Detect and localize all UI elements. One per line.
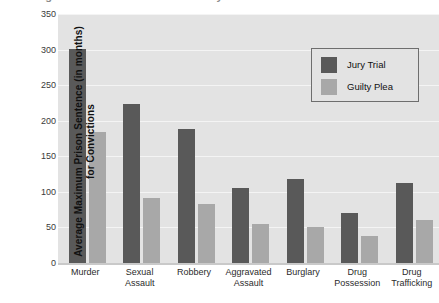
x-axis-tick-label: DrugPossession — [330, 267, 384, 289]
x-axis-tick-label: AggravatedAssault — [221, 267, 275, 289]
bar-group — [174, 14, 220, 263]
y-axis-tick-label: 100 — [41, 188, 56, 197]
bar-jury-trial[interactable] — [178, 129, 195, 263]
bar-jury-trial[interactable] — [123, 104, 140, 263]
x-axis-tick-label: Robbery — [167, 267, 221, 278]
x-axis-tick-label-line1: Robbery — [177, 267, 211, 277]
x-axis-tick-label-line1: Murder — [71, 267, 100, 277]
bar-jury-trial[interactable] — [341, 213, 358, 263]
legend-swatch-guilty-plea — [321, 79, 337, 95]
legend: Jury Trial Guilty Plea — [311, 48, 419, 102]
y-axis-title-line1: Average Maximum Prison Sentence (in mont… — [73, 26, 84, 257]
x-axis-tick-label: Murder — [58, 267, 112, 278]
x-axis-tick-label-line1: Sexual — [126, 267, 154, 277]
y-axis-tick-label: 150 — [41, 152, 56, 161]
y-axis-title: Average Maximum Prison Sentence (in mont… — [73, 17, 96, 267]
y-axis-tick-label: 0 — [51, 259, 56, 268]
y-axis-tick-label: 50 — [46, 223, 56, 232]
y-axis-tick-label: 300 — [41, 46, 56, 55]
x-axis-tick-label-line1: Drug — [348, 267, 368, 277]
x-axis-tick-label: DrugTrafficking — [385, 267, 439, 289]
y-axis-title-line2: for Convictions — [84, 17, 96, 267]
y-axis-tick-label: 350 — [41, 10, 56, 19]
y-axis-tick-labels: 050100150200250300350 — [34, 14, 56, 265]
bar-guilty-plea[interactable] — [307, 227, 324, 263]
bar-group — [119, 14, 165, 263]
x-axis-tick-label-line2: Assault — [221, 278, 275, 289]
x-axis-tick-label-line2: Possession — [330, 278, 384, 289]
y-axis-tick-label: 250 — [41, 81, 56, 90]
x-axis-line — [58, 263, 439, 265]
bar-jury-trial[interactable] — [232, 188, 249, 263]
y-axis-tick-label: 200 — [41, 117, 56, 126]
bar-guilty-plea[interactable] — [361, 236, 378, 263]
x-axis-tick-label-line1: Aggravated — [225, 267, 271, 277]
bar-guilty-plea[interactable] — [416, 220, 433, 263]
x-axis-tick-label-line2: Trafficking — [385, 278, 439, 289]
legend-label-guilty-plea: Guilty Plea — [347, 81, 393, 93]
x-axis-tick-label-line1: Drug — [402, 267, 422, 277]
bar-guilty-plea[interactable] — [143, 198, 160, 263]
bar-group — [228, 14, 274, 263]
legend-swatch-jury-trial — [321, 57, 337, 73]
legend-label-jury-trial: Jury Trial — [347, 59, 386, 71]
x-axis-tick-label: SexualAssault — [112, 267, 166, 289]
cut-off-chart-title: Average Maximum Prison Sentence by Offen… — [0, 0, 439, 9]
x-axis-tick-label-line1: Burglary — [286, 267, 320, 277]
bar-jury-trial[interactable] — [396, 183, 413, 263]
x-axis-tick-labels: MurderSexualAssaultRobberyAggravatedAssa… — [58, 267, 439, 303]
x-axis-tick-label: Burglary — [276, 267, 330, 278]
bar-guilty-plea[interactable] — [198, 204, 215, 263]
bar-guilty-plea[interactable] — [252, 224, 269, 263]
x-axis-tick-label-line2: Assault — [112, 278, 166, 289]
bar-chart: Average Maximum Prison Sentence by Offen… — [0, 0, 439, 303]
bar-jury-trial[interactable] — [287, 179, 304, 263]
